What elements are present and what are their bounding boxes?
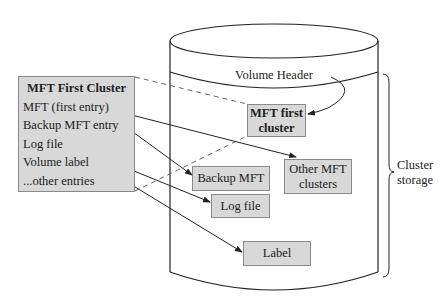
panel-entry-volume-label: Volume label: [23, 153, 134, 172]
diagram-canvas: MFT First Cluster MFT (first entry) Back…: [0, 0, 447, 304]
panel-title: MFT First Cluster: [23, 79, 134, 98]
volume-header-label: Volume Header: [235, 68, 313, 83]
box-line-2: cluster: [258, 121, 294, 136]
brace-label-line-1: Cluster: [397, 158, 433, 173]
panel-entry-backup-mft: Backup MFT entry: [23, 116, 134, 135]
other-mft-clusters-box: Other MFT clusters: [284, 159, 352, 194]
box-line-1: MFT first: [250, 106, 303, 121]
cluster-storage-brace: [383, 74, 394, 277]
mft-first-cluster-box: MFT first cluster: [247, 104, 306, 137]
box-line-1: Other MFT: [289, 162, 346, 177]
box-line-2: clusters: [299, 177, 337, 192]
backup-mft-box: Backup MFT: [192, 166, 270, 191]
mft-first-cluster-panel: MFT First Cluster MFT (first entry) Back…: [18, 76, 135, 192]
panel-entry-mft: MFT (first entry): [23, 98, 134, 117]
brace-label-line-2: storage: [397, 173, 433, 188]
panel-entry-other: ...other entries: [23, 172, 134, 191]
panel-entry-log-file: Log file: [23, 135, 134, 154]
label-box: Label: [243, 241, 311, 266]
cluster-storage-label: Cluster storage: [397, 158, 433, 188]
log-file-box: Log file: [211, 194, 270, 218]
